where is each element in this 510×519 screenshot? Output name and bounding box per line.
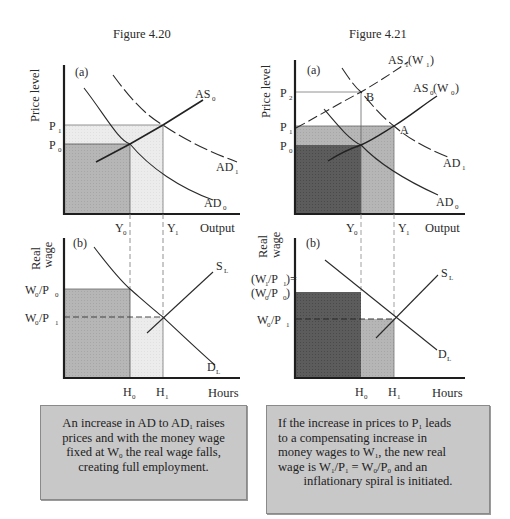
caption-line: to a compensating increase in xyxy=(278,431,489,446)
tick-h0: H0 xyxy=(123,385,136,401)
svg-text:AS: AS xyxy=(195,87,210,101)
svg-text:D: D xyxy=(207,360,216,374)
svg-text:AD: AD xyxy=(216,160,234,174)
shade-region-mid xyxy=(64,289,130,378)
panel-b-real-wage-hours: (b) Real wage Hours (W1 /P1 )= (W0 /P0 )… xyxy=(251,214,465,401)
panel-label: (b) xyxy=(306,236,320,250)
label-ad0: AD0 xyxy=(204,196,227,212)
caption-line: wage is W1/P1 = W0/P0 and an xyxy=(278,460,489,475)
svg-text:)=: )= xyxy=(286,272,297,286)
label-sl: SL xyxy=(216,259,228,275)
shade-region-mid xyxy=(361,319,394,378)
tick-y0: Y0 xyxy=(346,221,358,237)
svg-text:H: H xyxy=(156,385,165,399)
caption-box-figure-4-21: If the increase in prices to P1 leads to… xyxy=(266,405,490,514)
svg-text:/P: /P xyxy=(268,272,278,286)
svg-text:0: 0 xyxy=(58,146,62,154)
svg-text:H: H xyxy=(355,385,364,399)
shade-region-dark xyxy=(296,145,361,214)
svg-text:1: 1 xyxy=(406,229,410,237)
svg-text:1: 1 xyxy=(462,164,466,172)
tick-p1: P1 xyxy=(280,120,293,136)
svg-text:L: L xyxy=(216,368,220,376)
svg-text:0: 0 xyxy=(123,229,127,237)
svg-text:1: 1 xyxy=(175,229,179,237)
caption-line: money wages to W1, the new real xyxy=(278,445,489,460)
svg-text:D: D xyxy=(438,347,447,361)
svg-text:0: 0 xyxy=(455,203,459,211)
svg-text:S: S xyxy=(441,266,448,280)
x-axis-title: Hours xyxy=(432,386,463,400)
svg-text:AD: AD xyxy=(436,195,454,209)
caption-line: An increase in AD to AD1 raises xyxy=(41,416,246,431)
tick-y1: Y1 xyxy=(398,221,410,237)
svg-text:0: 0 xyxy=(212,95,216,103)
curve-sl xyxy=(376,275,438,338)
svg-text:/P: /P xyxy=(271,313,281,327)
tick-p0: P0 xyxy=(49,138,62,154)
y-axis-title-line2: wage xyxy=(269,231,283,258)
tick-w1p1-equals-w0p0: (W1 /P1 )= (W0 /P0 ) xyxy=(251,272,297,302)
svg-text:1: 1 xyxy=(235,168,239,176)
point-label-b: B xyxy=(366,90,374,104)
svg-text:): ) xyxy=(286,286,290,300)
caption-line: inflationary spiral is initiated. xyxy=(278,474,489,489)
svg-text:): ) xyxy=(455,81,459,95)
shade-region-dark xyxy=(296,292,361,378)
caption-line: prices and with the money wage xyxy=(41,431,246,446)
svg-text:0: 0 xyxy=(132,393,136,401)
svg-text:/P: /P xyxy=(39,283,49,297)
tick-h0: H0 xyxy=(355,385,368,401)
x-axis-title: Output xyxy=(425,221,460,235)
svg-text:H: H xyxy=(123,385,132,399)
shade-region-mid xyxy=(64,144,130,214)
caption-line: If the increase in prices to P1 leads xyxy=(278,416,489,431)
label-as0: AS0 xyxy=(195,87,216,103)
svg-text:P: P xyxy=(280,86,287,100)
svg-text:L: L xyxy=(447,355,451,363)
curve-sl xyxy=(147,272,213,333)
label-ad1: AD1 xyxy=(216,160,239,176)
panel-label: (a) xyxy=(307,63,320,77)
svg-text:0: 0 xyxy=(289,147,293,155)
figure-4-20: Figure 4.20 (a) Price level Output P1 P0 xyxy=(25,27,240,401)
x-axis-title: Hours xyxy=(208,386,239,400)
svg-text:P: P xyxy=(280,120,287,134)
label-as1-w1: AS1 (W1) xyxy=(388,53,434,69)
label-as0-w0: AS0 (W0) xyxy=(413,81,459,97)
figure-4-21: Figure 4.21 (a) Price level Output P2 P1 xyxy=(251,27,466,401)
svg-text:AS: AS xyxy=(413,81,428,95)
svg-text:(W: (W xyxy=(433,81,449,95)
svg-text:1: 1 xyxy=(58,127,62,135)
panel-b-real-wage-hours: (b) Real wage Hours W0 /P0 W0 /P1 H0 H1 … xyxy=(25,214,240,401)
svg-text:AS: AS xyxy=(388,53,403,67)
panel-a-price-output: (a) Price level Output P2 P1 P0 Y0 Y1 AS… xyxy=(259,53,466,237)
caption-line: fixed at W0 the real wage falls, xyxy=(41,445,246,460)
tick-w0-p1: W0 /P1 xyxy=(257,313,290,329)
y-axis-title-line2: wage xyxy=(41,241,55,268)
svg-text:H: H xyxy=(388,385,397,399)
shade-region-light xyxy=(130,317,163,378)
svg-text:S: S xyxy=(216,259,223,273)
svg-text:P: P xyxy=(49,138,56,152)
panel-a-price-output: (a) Price level Output P1 P0 Y0 Y1 AS0 A… xyxy=(28,65,240,237)
svg-text:0: 0 xyxy=(55,291,59,299)
svg-text:AD: AD xyxy=(204,196,222,210)
svg-text:1: 1 xyxy=(286,321,290,329)
svg-text:0: 0 xyxy=(223,204,227,212)
svg-text:P: P xyxy=(49,119,56,133)
tick-p0: P0 xyxy=(280,139,293,155)
svg-text:0: 0 xyxy=(364,393,368,401)
tick-w0-p0: W0 /P0 xyxy=(25,283,59,299)
svg-text:2: 2 xyxy=(289,94,293,102)
tick-y1: Y1 xyxy=(167,221,179,237)
point-label-a: A xyxy=(400,123,409,137)
tick-p1: P1 xyxy=(49,119,62,135)
label-dl: DL xyxy=(438,347,451,363)
svg-text:0: 0 xyxy=(354,229,358,237)
panel-label: (b) xyxy=(73,236,87,250)
tick-y0: Y0 xyxy=(115,221,127,237)
x-axis-title: Output xyxy=(200,221,235,235)
caption-box-figure-4-20: An increase in AD to AD1 raises prices a… xyxy=(40,405,247,500)
tick-p2: P2 xyxy=(280,86,293,102)
